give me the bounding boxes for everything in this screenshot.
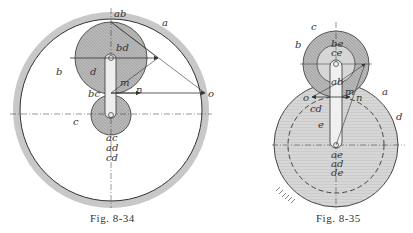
arm-d [105, 54, 116, 118]
label-d: d [90, 66, 96, 77]
label-c: c [73, 116, 79, 127]
caption-fig-8-34: Fig. 8-34 [90, 212, 135, 224]
label-b: b [295, 39, 301, 50]
label-o: o [303, 92, 309, 103]
label-d: d [396, 111, 402, 122]
arm-e [330, 60, 342, 148]
label-a: a [162, 17, 168, 28]
label-n: n [356, 92, 362, 103]
label-m: m [345, 86, 354, 97]
label-bd: bd [116, 42, 129, 53]
caption-fig-8-35: Fig. 8-35 [316, 212, 361, 224]
label-bc: bc [88, 88, 100, 99]
label-n: n [136, 84, 142, 95]
label-cd: cd [106, 152, 118, 163]
label-o: o [208, 88, 214, 99]
label-a: a [382, 86, 388, 97]
label-m: m [120, 77, 129, 88]
label-e: e [318, 119, 324, 130]
label-cd: cd [310, 103, 322, 114]
figure-8-35: c b be ce ab o m n a cd d e ae ad de Fig… [272, 21, 405, 224]
figure-8-34: ab a bd b d m bc n o c ac ad cd Fig. 8-3… [10, 8, 214, 224]
label-ab: ab [331, 76, 343, 87]
label-de: de [331, 167, 343, 178]
diagram-canvas: ab a bd b d m bc n o c ac ad cd Fig. 8-3… [0, 0, 413, 233]
label-ab: ab [114, 8, 126, 19]
label-b: b [56, 66, 62, 77]
label-c: c [311, 21, 317, 32]
label-ce: ce [331, 47, 343, 58]
